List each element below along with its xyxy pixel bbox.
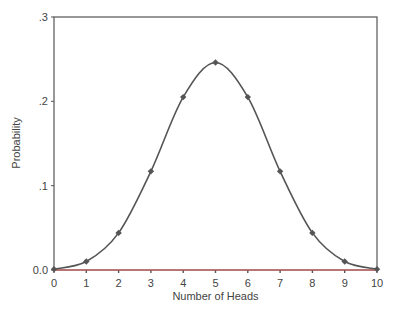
diamond-marker (342, 258, 348, 264)
y-tick-label: 0.0 (33, 264, 48, 276)
y-axis-title: Probability (10, 117, 22, 169)
x-tick-label: 2 (116, 277, 122, 289)
x-tick-label: 4 (180, 277, 186, 289)
x-tick-label: 5 (212, 277, 218, 289)
y-tick-label: .2 (39, 95, 48, 107)
x-axis-title: Number of Heads (172, 290, 259, 302)
y-axis: 0.0.1.2.3 (33, 11, 54, 276)
binomial-chart: 0.0.1.2.3 012345678910 Number of Heads P… (0, 0, 399, 315)
plot-frame (54, 17, 377, 270)
diamond-marker (374, 266, 380, 272)
y-tick-label: .3 (39, 11, 48, 23)
x-tick-label: 9 (342, 277, 348, 289)
probability-curve (54, 63, 377, 270)
diamond-marker (212, 59, 218, 65)
data-markers (51, 59, 380, 272)
x-tick-label: 7 (277, 277, 283, 289)
x-tick-label: 0 (51, 277, 57, 289)
x-tick-label: 10 (371, 277, 383, 289)
diamond-marker (277, 168, 283, 174)
x-tick-label: 8 (309, 277, 315, 289)
x-tick-label: 6 (245, 277, 251, 289)
diamond-marker (148, 168, 154, 174)
x-tick-label: 1 (83, 277, 89, 289)
y-tick-label: .1 (39, 180, 48, 192)
diamond-marker (51, 266, 57, 272)
x-tick-label: 3 (148, 277, 154, 289)
x-axis: 012345678910 (51, 270, 383, 289)
diamond-marker (83, 258, 89, 264)
